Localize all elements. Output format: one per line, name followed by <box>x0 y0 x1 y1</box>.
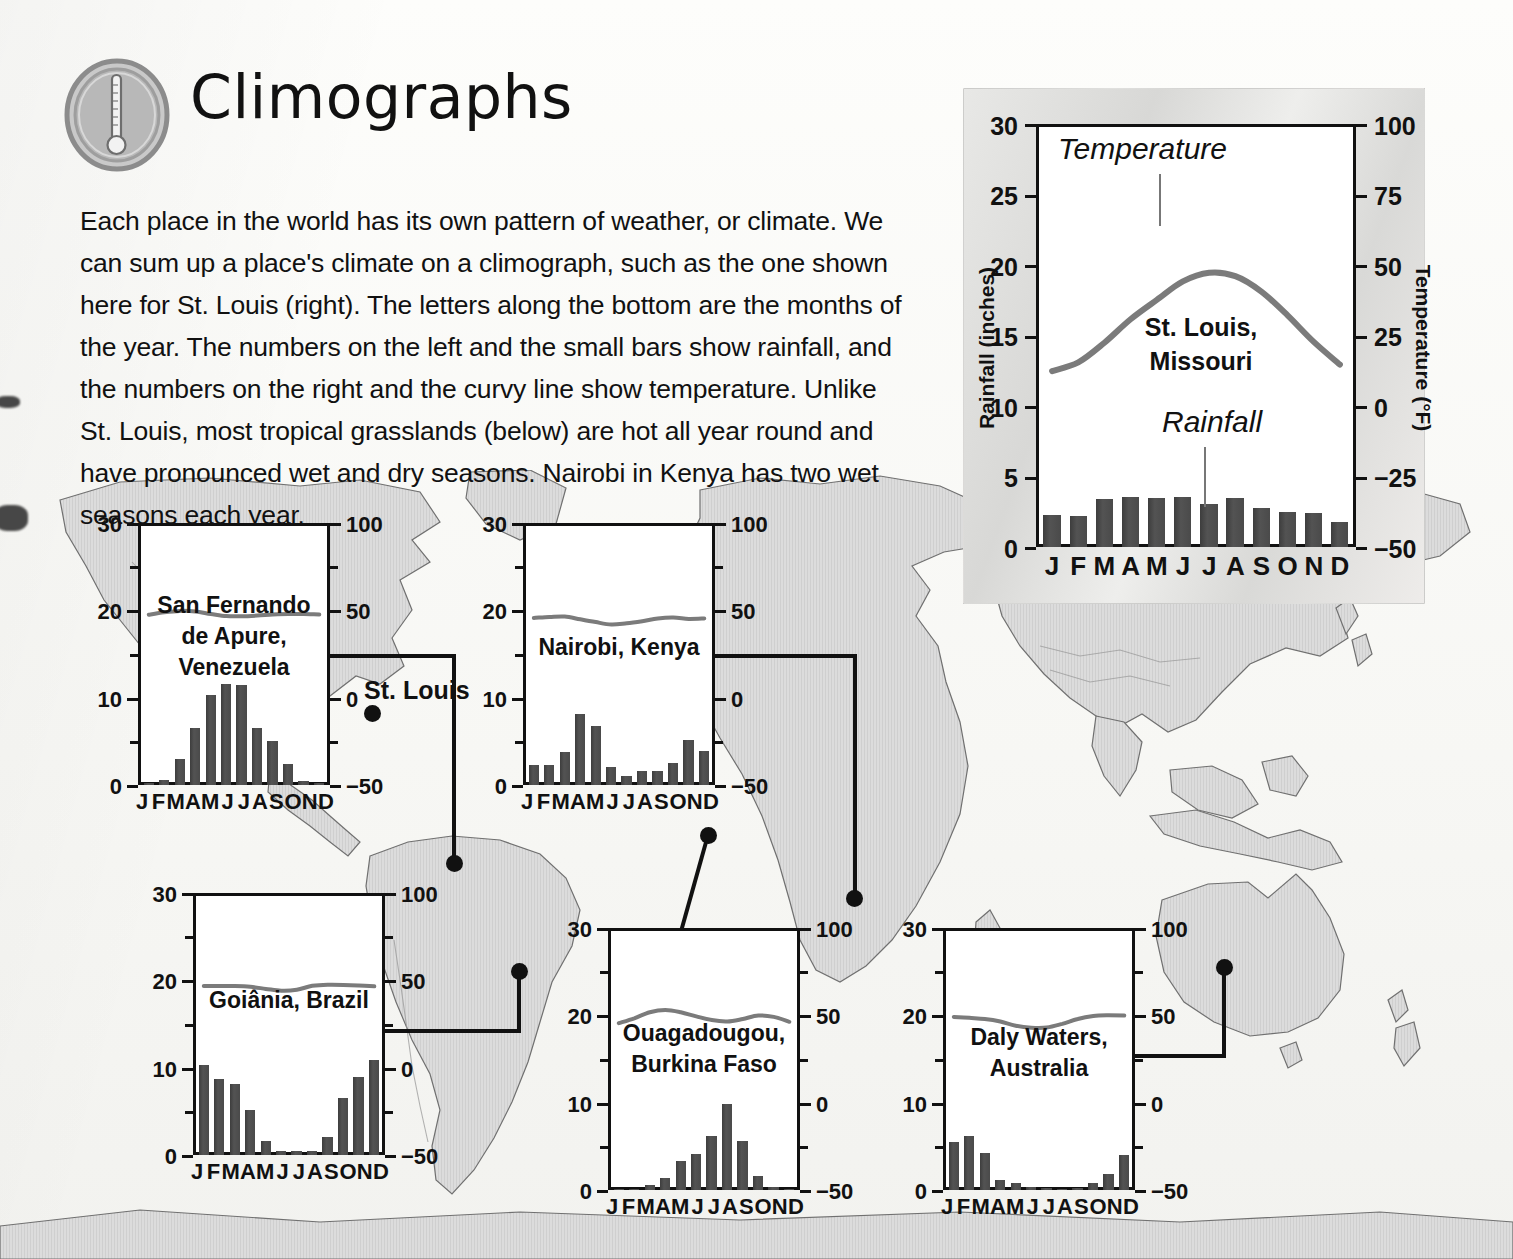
month-label: J <box>274 1159 290 1185</box>
temp-tick-label: −50 <box>401 1144 438 1170</box>
climograph-ouagadougou: 30 20 10 0 100 50 0 −50 Ouagadougou, Bur… <box>558 910 858 1220</box>
tick <box>1025 195 1036 198</box>
tick <box>1135 971 1143 974</box>
month-label: D <box>373 1159 389 1185</box>
tick <box>515 654 523 657</box>
month-label: N <box>302 789 318 815</box>
climograph-daly-waters: 30 20 10 0 100 50 0 −50 Daly Waters, Aus… <box>893 910 1193 1220</box>
rain-tick-label: 0 <box>110 774 122 800</box>
month-label: M <box>586 789 604 815</box>
rain-tick-label: 20 <box>98 599 122 625</box>
month-label: M <box>1144 551 1170 582</box>
tick <box>127 523 138 526</box>
rain-tick-label: 10 <box>483 687 507 713</box>
tick <box>385 980 396 983</box>
tick <box>130 566 138 569</box>
tick <box>1135 1059 1143 1062</box>
rain-tick-label: 10 <box>903 1092 927 1118</box>
tick <box>1356 124 1367 127</box>
month-labels: JFMAMJJASOND <box>189 1159 389 1185</box>
month-label: A <box>307 1159 323 1185</box>
tick <box>330 741 338 744</box>
temp-tick-label: 50 <box>816 1004 840 1030</box>
tick <box>800 1146 808 1149</box>
tick <box>932 928 943 931</box>
month-label: J <box>621 789 637 815</box>
month-labels: JFMAMJJASOND <box>939 1194 1139 1220</box>
month-label: J <box>1170 551 1196 582</box>
tick <box>130 654 138 657</box>
month-label: M <box>222 1159 240 1185</box>
rain-tick-label: 25 <box>990 182 1018 211</box>
month-label: M <box>637 1194 655 1220</box>
temp-tick-label: 25 <box>1374 323 1402 352</box>
temp-tick-label: −25 <box>1374 464 1416 493</box>
tick <box>330 785 341 788</box>
tick <box>800 1190 811 1193</box>
month-label: J <box>1039 551 1065 582</box>
tick <box>715 610 726 613</box>
temp-tick-label: 50 <box>346 599 370 625</box>
temp-tick-label: 100 <box>816 917 853 943</box>
rain-tick-label: 5 <box>1004 464 1018 493</box>
tick <box>935 971 943 974</box>
month-label: F <box>535 789 551 815</box>
month-label: A <box>1118 551 1144 582</box>
rainfall-annotation: Rainfall <box>1162 405 1262 439</box>
tick <box>932 1190 943 1193</box>
rainfall-axis-title: Rainfall (inches) <box>975 267 999 429</box>
month-label: N <box>1107 1194 1123 1220</box>
tick <box>715 698 726 701</box>
month-label: M <box>972 1194 990 1220</box>
temp-tick-label: 0 <box>1374 394 1388 423</box>
temp-tick-label: 100 <box>401 882 438 908</box>
intro-paragraph: Each place in the world has its own patt… <box>80 200 910 536</box>
tick <box>1025 124 1036 127</box>
rain-tick-label: 30 <box>98 512 122 538</box>
temp-tick-label: 100 <box>731 512 768 538</box>
tick <box>512 610 523 613</box>
month-label: F <box>1065 551 1091 582</box>
month-label: J <box>189 1159 205 1185</box>
tick <box>330 523 341 526</box>
rain-tick-label: 20 <box>568 1004 592 1030</box>
month-label: D <box>788 1194 804 1220</box>
st-louis-panel: 30 25 20 15 10 5 0 100 75 50 25 0 −25 −5… <box>963 88 1425 604</box>
month-label: J <box>689 1194 705 1220</box>
month-label: A <box>185 789 201 815</box>
tick <box>182 1068 193 1071</box>
temp-tick-label: −50 <box>1151 1179 1188 1205</box>
tick <box>1135 1190 1146 1193</box>
month-label: D <box>1327 551 1353 582</box>
tick <box>1025 265 1036 268</box>
month-label: O <box>1275 551 1301 582</box>
tick <box>597 1190 608 1193</box>
tick <box>1356 477 1367 480</box>
tick <box>1356 336 1367 339</box>
month-label: N <box>687 789 703 815</box>
month-label: S <box>1248 551 1274 582</box>
month-label: J <box>1196 551 1222 582</box>
place-name: Goiânia, Brazil <box>199 985 379 1016</box>
map-dot-ouagadougou <box>700 827 717 844</box>
month-labels: JFMAMJJASOND <box>519 789 719 815</box>
month-label: M <box>201 789 219 815</box>
month-label: J <box>604 789 620 815</box>
nairobi-leader-v <box>853 654 857 899</box>
rainfall-pointer <box>1204 447 1206 507</box>
temp-tick-label: 50 <box>1374 253 1402 282</box>
tick <box>597 1015 608 1018</box>
month-label: J <box>519 789 535 815</box>
tick <box>800 1103 811 1106</box>
month-label: S <box>653 789 669 815</box>
tick <box>127 785 138 788</box>
tick <box>715 741 723 744</box>
rain-tick-label: 20 <box>903 1004 927 1030</box>
temp-tick-label: 75 <box>1374 182 1402 211</box>
scan-artifact <box>0 505 28 531</box>
rain-tick-label: 10 <box>568 1092 592 1118</box>
month-label: A <box>570 789 586 815</box>
temperature-pointer <box>1159 174 1161 226</box>
temp-tick-label: −50 <box>346 774 383 800</box>
map-dot-daly-waters <box>1216 959 1233 976</box>
